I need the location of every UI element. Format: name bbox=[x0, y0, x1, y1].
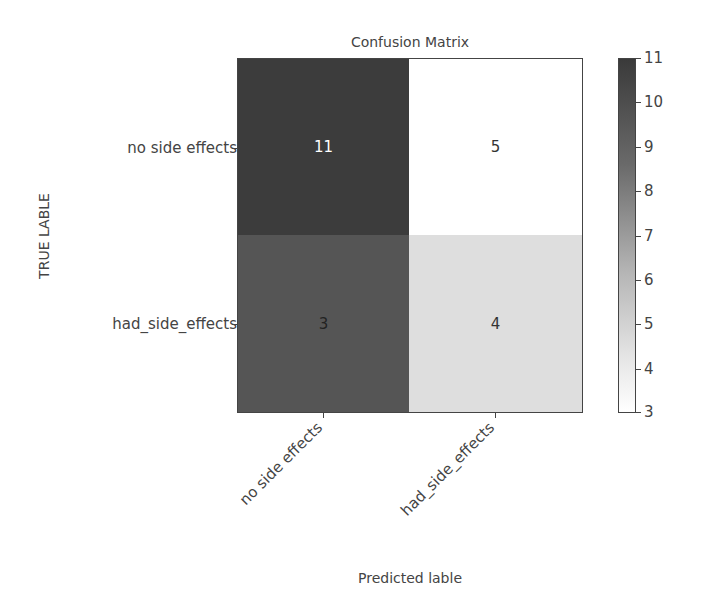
x-axis-label: Predicted lable bbox=[237, 570, 583, 586]
colorbar-tick-label: 7 bbox=[644, 227, 654, 245]
colorbar-tick-label: 9 bbox=[644, 138, 654, 156]
colorbar-tick bbox=[636, 280, 641, 281]
cell-true-no-pred-had: 5 bbox=[409, 59, 582, 235]
y-tick-label: no side effects bbox=[127, 139, 237, 157]
colorbar-tick bbox=[636, 102, 641, 103]
colorbar-tick-label: 3 bbox=[644, 403, 654, 421]
cell-true-had-pred-had: 4 bbox=[409, 235, 582, 412]
colorbar-tick bbox=[636, 324, 641, 325]
colorbar-tick bbox=[636, 412, 641, 413]
x-tick-mark bbox=[323, 413, 324, 418]
confusion-matrix: 11 5 3 4 bbox=[237, 58, 583, 413]
colorbar-tick bbox=[636, 191, 641, 192]
cell-true-had-pred-no: 3 bbox=[238, 235, 409, 412]
x-tick-mark bbox=[495, 413, 496, 418]
x-tick-label: no side effects bbox=[236, 419, 326, 509]
colorbar-tick bbox=[636, 236, 641, 237]
y-tick-label: had_side_effects bbox=[112, 315, 237, 333]
colorbar-tick-label: 10 bbox=[644, 93, 663, 111]
colorbar-tick bbox=[636, 147, 641, 148]
chart-title: Confusion Matrix bbox=[237, 34, 583, 50]
y-axis-label: TRUE LABLE bbox=[36, 193, 52, 279]
colorbar-tick-label: 11 bbox=[644, 49, 663, 67]
colorbar-tick-label: 8 bbox=[644, 182, 654, 200]
colorbar-tick-label: 6 bbox=[644, 271, 654, 289]
colorbar-tick bbox=[636, 369, 641, 370]
colorbar-tick-label: 4 bbox=[644, 360, 654, 378]
x-tick-label: had_side_effects bbox=[397, 419, 498, 520]
colorbar bbox=[618, 58, 636, 413]
cell-true-no-pred-no: 11 bbox=[238, 59, 409, 235]
colorbar-tick-label: 5 bbox=[644, 315, 654, 333]
colorbar-tick bbox=[636, 58, 641, 59]
